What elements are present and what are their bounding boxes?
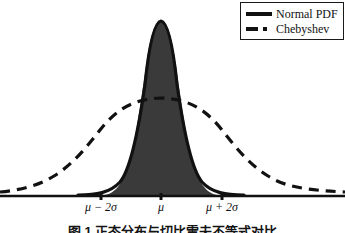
legend-item-chebyshev: Chebyshev [245,21,340,36]
chart-legend: Normal PDF Chebyshev [240,2,344,40]
tick-label-mu-minus-2sigma: μ − 2σ [85,201,117,213]
tick-label-mu-plus-2sigma: μ + 2σ [206,201,238,213]
legend-label-chebyshev: Chebyshev [276,23,329,35]
dashed-line-swatch [245,23,273,35]
legend-item-normal-pdf: Normal PDF [245,6,340,21]
shaded-region-two-sigma [95,22,227,196]
tick-label-mu: μ [158,201,164,213]
chart-figure: μ − 2σ μ μ + 2σ Normal PDF Chebyshev 图 1… [0,0,345,233]
legend-label-normal-pdf: Normal PDF [276,8,338,20]
solid-line-swatch [245,8,273,20]
figure-caption: 图 1 正态分布与切比雪夫不等式对比 [0,225,345,233]
